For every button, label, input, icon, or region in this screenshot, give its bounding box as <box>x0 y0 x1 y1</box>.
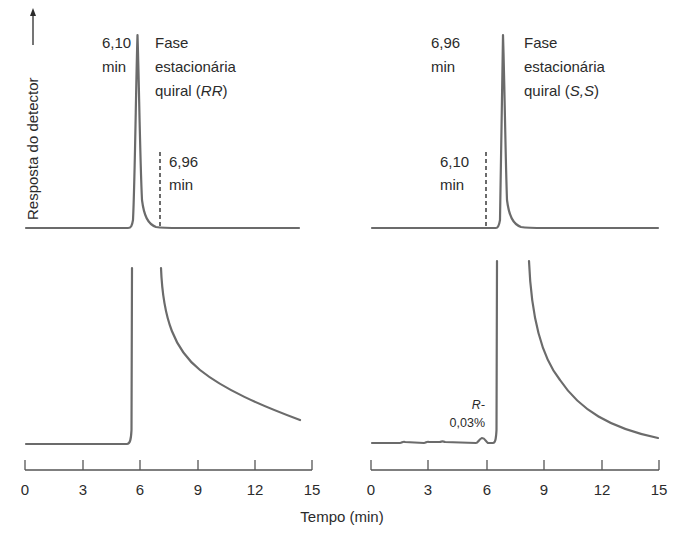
trace-bottom-left-tail <box>161 268 300 420</box>
tick-label: 3 <box>79 481 87 498</box>
x-axis-left: 0 3 6 9 12 15 <box>21 460 321 498</box>
chromatogram-figure: Resposta do detector 6,10 min Fase estac… <box>0 0 686 543</box>
peak-time-label: 6,96 <box>431 34 460 51</box>
marker-unit-label: min <box>440 176 464 193</box>
tick-label: 6 <box>483 481 491 498</box>
marker-time-label: 6,96 <box>169 153 198 170</box>
tick-label: 15 <box>304 481 321 498</box>
tick-label: 12 <box>247 481 264 498</box>
phase-label-line2: estacionária <box>155 58 237 75</box>
arrow-up-icon <box>30 8 36 16</box>
trace-top-right <box>372 35 658 228</box>
x-axis-label: Tempo (min) <box>300 508 383 525</box>
phase-label-line3: quiral (S,S) <box>524 82 599 99</box>
panel-bottom-left <box>26 268 300 444</box>
peak-time-label: 6,10 <box>102 34 131 51</box>
trace-bottom-left-rise <box>26 268 132 444</box>
panel-top-left: 6,10 min Fase estacionária quiral (RR) 6… <box>26 34 299 228</box>
panel-top-right: 6,96 min Fase estacionária quiral (S,S) … <box>372 34 658 228</box>
tick-label: 9 <box>540 481 548 498</box>
tick-label: 12 <box>594 481 611 498</box>
marker-time-label: 6,10 <box>440 153 469 170</box>
tick-label: 0 <box>21 481 29 498</box>
phase-label-line3: quiral (RR) <box>155 82 228 99</box>
tick-label: 9 <box>194 481 202 498</box>
tick-label: 0 <box>367 481 375 498</box>
panel-bottom-right: R- 0,03% <box>372 261 658 443</box>
tick-label: 3 <box>424 481 432 498</box>
impurity-label-line1: R- <box>472 398 485 412</box>
tick-label: 15 <box>651 481 668 498</box>
tick-label: 6 <box>136 481 144 498</box>
y-axis-label: Resposta do detector <box>24 77 41 220</box>
phase-label-line1: Fase <box>524 34 557 51</box>
phase-label-line2: estacionária <box>524 58 606 75</box>
peak-unit-label: min <box>102 58 126 75</box>
trace-bottom-right-tail <box>529 261 658 438</box>
marker-unit-label: min <box>169 176 193 193</box>
peak-unit-label: min <box>431 58 455 75</box>
x-axis-right: 0 3 6 9 12 15 <box>367 460 668 498</box>
impurity-label-line2: 0,03% <box>450 416 485 430</box>
phase-label-line1: Fase <box>155 34 188 51</box>
y-axis-label-group: Resposta do detector <box>24 8 41 220</box>
